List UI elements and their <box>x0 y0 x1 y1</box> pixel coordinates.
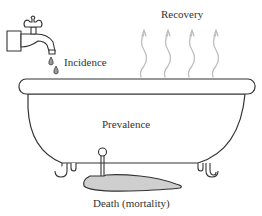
incidence-label: Incidence <box>64 56 107 68</box>
tub-feet-icon <box>55 163 218 177</box>
faucet-icon <box>7 16 55 54</box>
death-mortality-label: Death (mortality) <box>93 197 170 209</box>
bathtub-diagram: Incidence Recovery Prevalence Death (mor… <box>0 0 262 216</box>
puddle-icon <box>84 175 182 191</box>
diagram-canvas <box>0 0 262 216</box>
water-drops-icon <box>49 57 59 74</box>
prevalence-label: Prevalence <box>102 118 150 130</box>
recovery-label: Recovery <box>161 8 203 20</box>
steam-icon <box>140 30 218 77</box>
